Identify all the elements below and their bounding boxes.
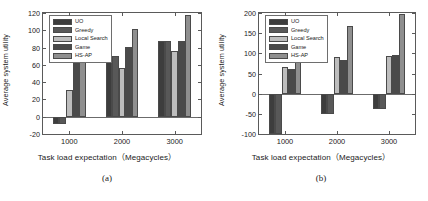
- legend-entry-greedy: Greedy: [53, 27, 108, 34]
- y-tick-mark: [259, 13, 262, 14]
- bar-greedy-1000: [275, 94, 282, 134]
- legend-entry-label: UO: [291, 18, 299, 25]
- x-tick-mark: [69, 131, 70, 134]
- zero-axis-line: [43, 117, 201, 118]
- y-tick-mark: [43, 134, 46, 135]
- x-tick-mark: [69, 13, 70, 16]
- legend-entry-local-search: Local Search: [269, 35, 324, 42]
- y-tick-mark: [43, 99, 46, 100]
- y-tick-mark: [43, 48, 46, 49]
- x-axis-label-b: Task load expectation（Megacycles）: [214, 151, 428, 162]
- legend-a: UOGreedyLocal SearchGameHS-AP: [49, 15, 112, 63]
- x-tick-mark: [175, 131, 176, 134]
- y-tick-mark: [412, 94, 415, 95]
- y-tick-mark: [198, 82, 201, 83]
- x-tick-mark: [389, 13, 390, 16]
- legend-entry-game: Game: [53, 44, 108, 51]
- legend-swatch-icon: [269, 36, 288, 42]
- legend-entry-label: Game: [291, 44, 306, 51]
- y-tick-mark: [259, 53, 262, 54]
- y-tick-label: 20: [32, 95, 40, 104]
- bar-game-1000: [73, 59, 80, 117]
- bar-local-search-1000: [66, 90, 73, 117]
- bar-greedy-2000: [112, 56, 119, 117]
- bar-game-3000: [178, 41, 185, 117]
- legend-swatch-icon: [269, 53, 288, 59]
- y-tick-mark: [412, 53, 415, 54]
- y-tick-label: -100: [242, 130, 256, 139]
- x-tick-mark: [285, 13, 286, 16]
- x-tick-mark: [122, 131, 123, 134]
- legend-entry-game: Game: [269, 44, 324, 51]
- legend-entry-label: Local Search: [291, 35, 324, 42]
- legend-swatch-icon: [53, 36, 72, 42]
- bar-game-2000: [125, 47, 132, 117]
- y-tick-mark: [43, 117, 46, 118]
- y-tick-mark: [43, 13, 46, 14]
- bar-greedy-3000: [165, 41, 172, 117]
- legend-b: UOGreedyLocal SearchGameHS-AP: [265, 15, 328, 63]
- panel-caption-a: (a): [0, 173, 214, 183]
- legend-entry-label: Local Search: [75, 35, 108, 42]
- y-tick-label: -20: [30, 130, 40, 139]
- bar-uo-3000: [158, 41, 165, 117]
- legend-swatch-icon: [53, 53, 72, 59]
- legend-entry-label: HS-AP: [291, 52, 308, 59]
- panel-caption-b: (b): [214, 173, 428, 183]
- x-tick-label: 1000: [277, 137, 293, 146]
- legend-entry-uo: UO: [269, 18, 324, 25]
- x-tick-mark: [337, 13, 338, 16]
- y-tick-mark: [259, 33, 262, 34]
- x-tick-mark: [122, 13, 123, 16]
- y-tick-label: 100: [28, 26, 40, 35]
- y-tick-mark: [259, 134, 262, 135]
- y-tick-mark: [412, 114, 415, 115]
- zero-axis-line: [259, 94, 415, 95]
- y-tick-mark: [198, 13, 201, 14]
- y-tick-label: 100: [244, 49, 256, 58]
- legend-entry-hs-ap: HS-AP: [269, 52, 324, 59]
- legend-entry-label: Game: [75, 44, 90, 51]
- legend-entry-uo: UO: [53, 18, 108, 25]
- plot-area-a: UOGreedyLocal SearchGameHS-AP -200204060…: [42, 12, 202, 135]
- y-tick-mark: [198, 117, 201, 118]
- bar-local-search-3000: [171, 51, 178, 117]
- x-tick-label: 3000: [381, 137, 397, 146]
- y-tick-mark: [412, 33, 415, 34]
- y-axis-label-b: Average system utility: [215, 0, 229, 140]
- legend-entry-greedy: Greedy: [269, 27, 324, 34]
- legend-entry-label: Greedy: [75, 27, 93, 34]
- y-tick-label: 0: [36, 112, 40, 121]
- legend-swatch-icon: [269, 27, 288, 33]
- chart-panel-b: Average system utility UOGreedyLocal Sea…: [214, 0, 428, 201]
- x-tick-mark: [337, 131, 338, 134]
- y-tick-mark: [259, 94, 262, 95]
- y-tick-mark: [259, 74, 262, 75]
- bar-hs-ap-3000: [185, 15, 192, 117]
- figure-two-bar-charts: Average system utility UOGreedyLocal Sea…: [0, 0, 428, 201]
- chart-panel-a: Average system utility UOGreedyLocal Sea…: [0, 0, 214, 201]
- y-tick-label: 60: [32, 60, 40, 69]
- legend-swatch-icon: [269, 44, 288, 50]
- legend-entry-label: Greedy: [291, 27, 309, 34]
- x-tick-label: 3000: [166, 137, 182, 146]
- y-tick-mark: [198, 65, 201, 66]
- x-tick-label: 2000: [329, 137, 345, 146]
- bar-hs-ap-2000: [347, 26, 354, 93]
- x-tick-mark: [285, 131, 286, 134]
- y-tick-mark: [412, 134, 415, 135]
- bar-greedy-1000: [59, 117, 66, 125]
- legend-entry-label: HS-AP: [75, 52, 92, 59]
- y-tick-mark: [43, 65, 46, 66]
- y-tick-label: 150: [244, 29, 256, 38]
- x-tick-label: 2000: [114, 137, 130, 146]
- y-tick-mark: [198, 48, 201, 49]
- y-tick-mark: [43, 30, 46, 31]
- legend-entry-hs-ap: HS-AP: [53, 52, 108, 59]
- y-tick-label: -50: [246, 109, 256, 118]
- bar-hs-ap-2000: [132, 29, 139, 116]
- y-tick-mark: [412, 13, 415, 14]
- bar-greedy-3000: [379, 94, 386, 109]
- y-tick-label: 80: [32, 43, 40, 52]
- x-axis-label-a: Task load expectation（Megacycles）: [0, 151, 214, 162]
